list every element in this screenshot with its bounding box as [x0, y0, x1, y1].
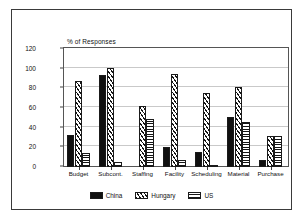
y-tick-mark [60, 87, 63, 88]
legend-label: Hungary [151, 192, 175, 199]
y-tick-mark [60, 48, 63, 49]
x-tick-mark [271, 167, 272, 170]
bar-china-subcont [99, 75, 106, 167]
bar-group [195, 48, 217, 167]
bar-china-scheduling [195, 152, 202, 167]
legend-label: US [204, 192, 213, 199]
bar-hungary-subcont [107, 68, 114, 167]
chart-legend: ChinaHungaryUS [12, 192, 291, 199]
bar-group [227, 48, 249, 167]
bar-hungary-purchase [267, 136, 274, 167]
bar-china-purchase [259, 160, 266, 167]
y-tick-label: 60 [14, 104, 36, 111]
y-tick-label: 40 [14, 123, 36, 130]
x-tick-mark [207, 167, 208, 170]
bar-hungary-material [235, 87, 242, 167]
bar-us-facility [178, 160, 185, 167]
y-tick-label: 20 [14, 143, 36, 150]
bar-us-scheduling [210, 165, 217, 167]
y-axis-title: % of Responses [67, 38, 116, 45]
chart-screenshot: % of Responses 020406080100120 BudgetSub… [0, 0, 303, 220]
x-tick-label: Material [227, 170, 249, 177]
y-tick-mark [60, 67, 63, 68]
bars-layer [64, 48, 288, 167]
legend-label: China [106, 192, 123, 199]
legend-item-china: China [90, 192, 123, 199]
bar-china-facility [163, 147, 170, 167]
x-tick-label: Scheduling [191, 170, 222, 177]
x-tick-label: Budget [69, 170, 89, 177]
y-tick-label: 120 [14, 45, 36, 52]
y-tick-mark [60, 107, 63, 108]
bar-us-material [242, 122, 249, 167]
legend-swatch-icon [135, 192, 148, 199]
legend-swatch-icon [90, 192, 103, 199]
bar-china-material [227, 117, 234, 167]
bar-group [163, 48, 185, 167]
bar-us-purchase [274, 136, 281, 167]
x-tick-label: Purchase [257, 170, 283, 177]
bar-china-budget [67, 135, 74, 167]
x-tick-mark [79, 167, 80, 170]
bar-us-staffing [146, 119, 153, 167]
x-tick-mark [143, 167, 144, 170]
bar-group [259, 48, 281, 167]
bar-hungary-budget [75, 81, 82, 167]
x-tick-mark [239, 167, 240, 170]
x-tick-label: Facility [165, 170, 184, 177]
y-tick-label: 80 [14, 84, 36, 91]
bar-us-budget [82, 153, 89, 167]
legend-item-us: US [188, 192, 213, 199]
x-tick-label: Subcont. [98, 170, 122, 177]
y-tick-mark [60, 166, 63, 167]
bar-group [99, 48, 121, 167]
bar-us-subcont [114, 162, 121, 167]
y-tick-label: 0 [14, 163, 36, 170]
legend-item-hungary: Hungary [135, 192, 175, 199]
x-tick-label: Staffing [132, 170, 153, 177]
x-tick-mark [111, 167, 112, 170]
y-tick-mark [60, 146, 63, 147]
bar-hungary-scheduling [203, 93, 210, 167]
x-tick-mark [175, 167, 176, 170]
bar-hungary-facility [171, 74, 178, 167]
y-tick-mark [60, 126, 63, 127]
y-tick-label: 100 [14, 64, 36, 71]
page-frame: % of Responses 020406080100120 BudgetSub… [11, 9, 292, 210]
bar-hungary-staffing [139, 106, 146, 167]
bar-group [131, 48, 153, 167]
legend-swatch-icon [188, 192, 201, 199]
bar-group [67, 48, 89, 167]
